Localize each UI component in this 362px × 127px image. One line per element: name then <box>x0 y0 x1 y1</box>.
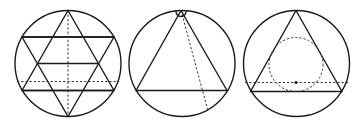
circumcircle <box>129 11 235 117</box>
figure-hexagram-grid <box>15 11 121 117</box>
figure-triangle-incircle <box>244 11 350 117</box>
diagram-canvas <box>0 0 362 127</box>
figure-triangle-apex-angle <box>129 11 235 117</box>
dashed-line <box>181 11 208 112</box>
inscribed-triangle <box>251 11 343 92</box>
circumcircle <box>244 11 350 117</box>
geometric-figures <box>0 0 362 127</box>
inscribed-triangle <box>136 11 227 91</box>
center-point <box>294 81 297 84</box>
